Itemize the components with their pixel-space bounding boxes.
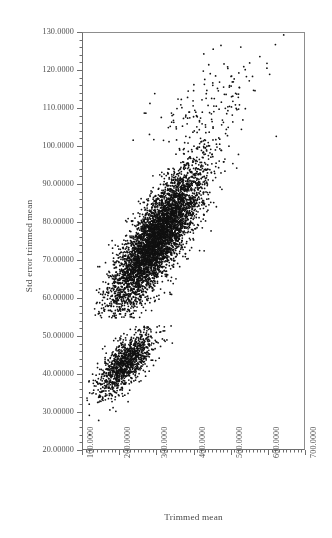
x-tick-label: 300.0000 xyxy=(160,426,169,458)
x-tick-label: 100.0000 xyxy=(86,426,95,458)
x-axis-title: Trimmed mean xyxy=(82,512,305,522)
x-tick-label: 600.0000 xyxy=(272,426,281,458)
y-axis-title: Std error trimmed mean xyxy=(24,151,34,341)
x-tick-label: 200.0000 xyxy=(123,426,132,458)
x-tick-label: 700.0000 xyxy=(309,426,318,458)
scatter-plot-figure: 20.0000030.0000040.0000050.0000060.00000… xyxy=(0,0,332,538)
x-tick-label: 500.0000 xyxy=(235,426,244,458)
x-axis-tick-labels: 100.0000200.0000300.0000400.0000500.0000… xyxy=(0,0,332,538)
x-tick-label: 400.0000 xyxy=(198,426,207,458)
